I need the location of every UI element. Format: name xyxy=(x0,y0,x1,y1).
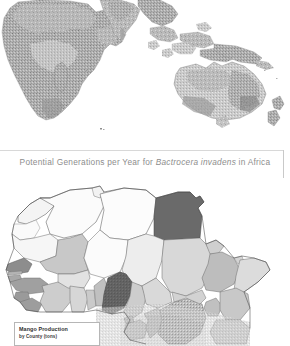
africa-choropleth-map[interactable] xyxy=(0,178,284,346)
legend-subtitle: by County (tons) xyxy=(19,333,99,340)
map-title: Potential Generations per Year for Bactr… xyxy=(0,157,290,167)
panel-divider xyxy=(0,150,284,151)
figure-page: Potential Generations per Year for Bactr… xyxy=(0,0,290,346)
map-title-species: Bactrocera invadens xyxy=(156,157,236,167)
legend-title: Mango Production xyxy=(19,326,99,333)
map-title-prefix: Potential Generations per Year for xyxy=(20,157,156,167)
map-title-suffix: in Africa xyxy=(236,157,270,167)
country-egypt[interactable] xyxy=(154,192,204,240)
world-raster-map[interactable] xyxy=(0,0,290,150)
map-legend[interactable]: Mango Production by County (tons) xyxy=(14,322,100,346)
